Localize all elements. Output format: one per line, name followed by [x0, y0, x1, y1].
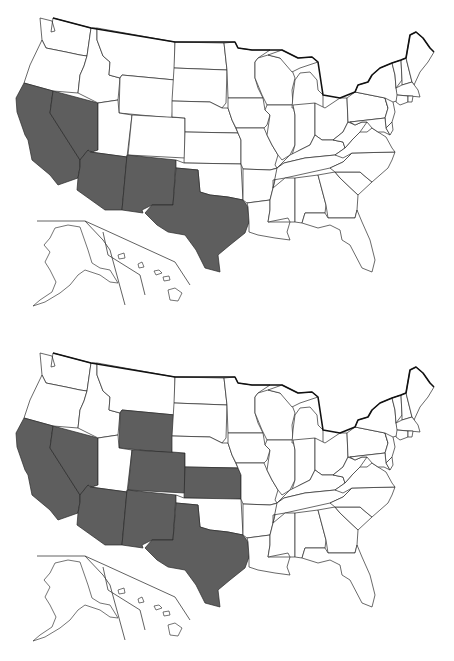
state-mi — [292, 407, 323, 443]
state-ct — [396, 95, 408, 105]
state-fl — [302, 545, 375, 607]
state-ia — [228, 433, 270, 463]
map-bottom — [0, 335, 454, 661]
us-map-bottom — [0, 335, 454, 661]
state-hi — [154, 270, 162, 275]
state-ri — [408, 96, 413, 102]
map-top — [0, 0, 454, 330]
state-nd — [174, 377, 227, 405]
state-hi — [138, 262, 144, 268]
state-nd — [174, 42, 227, 70]
state-wy — [119, 410, 175, 453]
alaska-hawaii-inset — [33, 556, 190, 641]
state-ma — [396, 82, 420, 97]
us-map-top — [0, 0, 454, 330]
state-hi — [163, 611, 170, 616]
state-hi — [168, 623, 182, 636]
state-ri — [408, 431, 413, 437]
state-hi — [138, 597, 144, 603]
state-ia — [228, 98, 270, 128]
state-mi — [292, 72, 323, 108]
state-hi — [168, 288, 182, 301]
state-ks — [184, 467, 241, 499]
state-hi — [118, 588, 125, 594]
alaska-hawaii-inset — [33, 221, 190, 306]
state-az — [77, 485, 127, 545]
state-co — [128, 450, 185, 493]
state-nm — [122, 155, 176, 213]
state-ks — [184, 132, 241, 164]
state-hi — [154, 605, 162, 610]
state-ct — [396, 430, 408, 440]
state-ak — [33, 225, 118, 306]
state-ak — [33, 560, 118, 641]
state-ma — [396, 417, 420, 432]
state-nm — [122, 490, 176, 548]
state-co — [128, 115, 185, 158]
state-nj — [385, 98, 395, 128]
state-hi — [163, 276, 170, 281]
state-wy — [119, 75, 175, 118]
state-nj — [385, 433, 395, 463]
state-fl — [302, 210, 375, 272]
state-az — [77, 150, 127, 210]
state-hi — [118, 253, 125, 259]
